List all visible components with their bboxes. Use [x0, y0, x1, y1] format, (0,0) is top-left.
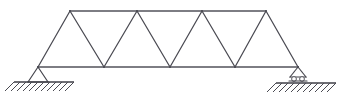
truss-diagonal-8: [266, 11, 298, 67]
roller-support-left-edge: [290, 67, 298, 77]
truss-joint-L0: [37, 66, 39, 68]
truss-joint-L4: [297, 66, 299, 68]
roller-support-right: [267, 67, 336, 92]
truss-diagonal-7: [235, 11, 266, 67]
truss-diagonal-5: [170, 11, 202, 67]
truss-joint-U4: [265, 10, 267, 12]
ground-hatching-right: [267, 83, 336, 92]
truss-joints: [37, 10, 299, 68]
pin-support-right-edge: [38, 67, 48, 82]
truss-diagonal-1: [38, 11, 70, 67]
truss-joint-L2: [169, 66, 171, 68]
truss-diagram-canvas: [0, 0, 338, 102]
truss-joint-L1: [103, 66, 105, 68]
truss-diagram-figure: [0, 0, 338, 102]
truss-joint-U2: [136, 10, 138, 12]
truss-joint-U3: [201, 10, 203, 12]
truss-diagonal-3: [104, 11, 137, 67]
pin-support-left: [5, 67, 74, 91]
truss-joint-L3: [234, 66, 236, 68]
truss-diagonal-4: [137, 11, 170, 67]
truss-diagonal-2: [70, 11, 104, 67]
roller-support-right-edge: [298, 67, 306, 77]
ground-hatching-left: [5, 82, 74, 91]
truss-diagonals: [38, 11, 298, 67]
pin-support-left-edge: [28, 67, 38, 82]
truss-joint-U1: [69, 10, 71, 12]
truss-diagonal-6: [202, 11, 235, 67]
